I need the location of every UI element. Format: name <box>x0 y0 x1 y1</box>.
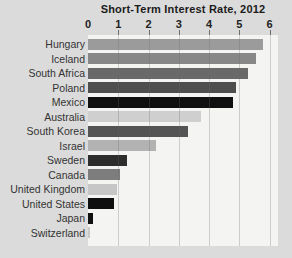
bar <box>88 53 256 64</box>
bar <box>88 111 201 122</box>
axis-tick-label: 3 <box>176 18 182 30</box>
bar-row: Hungary <box>0 37 292 52</box>
bar-row: Canada <box>0 168 292 183</box>
chart-title: Short-Term Interest Rate, 2012 <box>88 3 278 15</box>
country-label: Canada <box>0 170 88 181</box>
bar-row: United Kingdom <box>0 182 292 197</box>
bar <box>88 169 120 180</box>
bar <box>88 140 156 151</box>
bar-row: Israel <box>0 139 292 154</box>
interest-rate-bar-chart: Short-Term Interest Rate, 2012 0123456 H… <box>0 0 292 258</box>
axis-tick-label: 6 <box>266 18 272 30</box>
bar-row: South Africa <box>0 66 292 81</box>
country-label: Australia <box>0 112 88 123</box>
country-label: United States <box>0 199 88 210</box>
bar-row: United States <box>0 197 292 212</box>
bar-row: South Korea <box>0 124 292 139</box>
bar-row: Mexico <box>0 95 292 110</box>
country-label: Japan <box>0 213 88 224</box>
country-label: Hungary <box>0 39 88 50</box>
axis-tick-label: 2 <box>145 18 151 30</box>
bar <box>88 68 248 79</box>
bar <box>88 82 236 93</box>
bar-row: Sweden <box>0 153 292 168</box>
bar <box>88 126 188 137</box>
country-label: Israel <box>0 141 88 152</box>
country-label: United Kingdom <box>0 184 88 195</box>
country-label: Poland <box>0 83 88 94</box>
bar-row: Iceland <box>0 52 292 67</box>
bar <box>88 39 263 50</box>
axis-tick-label: 1 <box>115 18 121 30</box>
bar-rows: HungaryIcelandSouth AfricaPolandMexicoAu… <box>0 35 292 246</box>
bar <box>88 213 93 224</box>
axis-tick-label: 0 <box>85 18 91 30</box>
axis-tick-label: 4 <box>206 18 212 30</box>
axis-tick-label: 5 <box>236 18 242 30</box>
bar <box>88 97 233 108</box>
bar-row: Poland <box>0 81 292 96</box>
bar-row: Switzerland <box>0 226 292 241</box>
country-label: Iceland <box>0 54 88 65</box>
bar <box>88 184 117 195</box>
bar <box>88 227 90 238</box>
bar <box>88 198 114 209</box>
bar <box>88 155 127 166</box>
bar-row: Australia <box>0 110 292 125</box>
country-label: South Korea <box>0 126 88 137</box>
country-label: Sweden <box>0 155 88 166</box>
country-label: South Africa <box>0 68 88 79</box>
country-label: Mexico <box>0 97 88 108</box>
country-label: Switzerland <box>0 228 88 239</box>
bar-row: Japan <box>0 211 292 226</box>
